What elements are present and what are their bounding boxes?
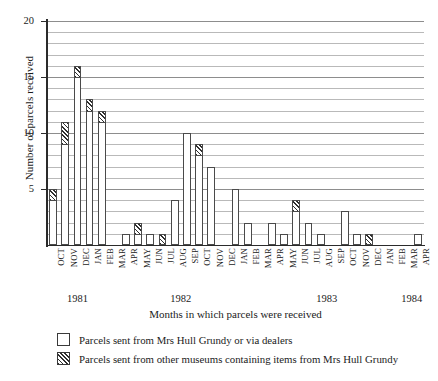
bar-segment-white — [353, 234, 361, 245]
bar-series-container — [47, 21, 424, 245]
bar-column — [74, 66, 82, 245]
bar-column — [122, 234, 130, 245]
bar-column — [341, 211, 349, 245]
y-axis-tick — [41, 189, 47, 190]
legend-label: Parcels sent from other museums containi… — [79, 353, 398, 365]
legend-swatch-white-icon — [57, 333, 70, 346]
x-axis-month-label: AUG — [324, 248, 334, 267]
y-axis-tick-label: 20 — [8, 15, 34, 26]
bar-segment-white — [317, 234, 325, 245]
bar-segment-white — [86, 111, 94, 245]
x-axis-month-label: DEC — [81, 248, 91, 266]
bar-column — [207, 167, 215, 245]
x-axis-month-label: FEB — [105, 248, 115, 264]
bar-segment-white — [146, 234, 154, 245]
x-axis-month-label: AUG — [178, 248, 188, 267]
bar-column — [414, 234, 422, 245]
x-axis-title: Months in which parcels were received — [47, 308, 424, 320]
legend-swatch-hatched-icon — [57, 352, 70, 365]
y-axis-tick-label: 15 — [8, 71, 34, 82]
x-axis-year-label: 1984 — [401, 293, 422, 304]
x-axis-month-label: JUL — [312, 248, 322, 263]
x-axis-month-label: JAN — [93, 248, 103, 264]
x-axis-month-label: SEP — [336, 248, 346, 263]
x-axis-month-label: APR — [275, 248, 285, 265]
bar-segment-hatched — [61, 122, 69, 144]
bar-column — [292, 200, 300, 245]
x-axis-month-label: JAN — [385, 248, 395, 264]
bar-segment-white — [280, 234, 288, 245]
y-axis-tick — [41, 133, 47, 134]
bar-segment-hatched — [159, 234, 167, 245]
x-axis-year-label: 1983 — [316, 293, 337, 304]
bar-segment-white — [341, 211, 349, 245]
x-axis-month-label: MAR — [409, 248, 419, 268]
bar-segment-white — [49, 200, 57, 245]
bar-segment-white — [195, 155, 203, 245]
bar-column — [171, 200, 179, 245]
x-axis-month-label: MAR — [263, 248, 273, 268]
x-axis-month-label: SEP — [190, 248, 200, 263]
legend-item: Parcels sent from other museums containi… — [57, 352, 432, 365]
y-axis-tick-label: 5 — [8, 183, 34, 194]
x-axis-month-label: MAY — [288, 248, 298, 268]
x-axis-month-label: NOV — [69, 248, 79, 267]
y-axis-tick-label: 10 — [8, 127, 34, 138]
bar-segment-hatched — [86, 99, 94, 110]
x-axis-year-label: 1981 — [67, 293, 88, 304]
bar-column — [49, 189, 57, 245]
bar-segment-hatched — [74, 66, 82, 77]
x-axis-month-label: DEC — [373, 248, 383, 266]
y-axis-tick — [41, 77, 47, 78]
x-axis-month-label: JUN — [154, 248, 164, 264]
x-axis-month-label: APR — [421, 248, 431, 265]
bar-column — [232, 189, 240, 245]
x-axis-month-label: OCT — [348, 248, 358, 266]
x-axis-month-labels: OCTNOVDECJANFEBMARAPRMAYJUNJULAUGSEPOCTN… — [47, 248, 424, 292]
bar-segment-white — [232, 189, 240, 245]
x-axis-month-label: OCT — [202, 248, 212, 266]
bar-column — [268, 223, 276, 245]
x-axis-month-label: JAN — [239, 248, 249, 264]
bar-column — [146, 234, 154, 245]
x-axis-month-label: MAY — [142, 248, 152, 268]
chart-legend: Parcels sent from Mrs Hull Grundy or via… — [57, 333, 432, 371]
legend-item: Parcels sent from Mrs Hull Grundy or via… — [57, 333, 432, 346]
y-axis-title: Number of parcels received — [23, 3, 35, 233]
bar-segment-hatched — [195, 144, 203, 155]
bar-segment-white — [292, 211, 300, 245]
x-axis-month-label: APR — [129, 248, 139, 265]
bar-segment-white — [134, 234, 142, 245]
x-axis-month-label: JUL — [166, 248, 176, 263]
bar-segment-white — [122, 234, 130, 245]
bar-column — [134, 223, 142, 245]
bar-column — [61, 122, 69, 245]
bar-segment-white — [244, 223, 252, 245]
x-axis-month-label: DEC — [227, 248, 237, 266]
bar-column — [305, 223, 313, 245]
x-axis-month-label: MAR — [117, 248, 127, 268]
y-axis-tick — [41, 21, 47, 22]
x-axis-month-label: FEB — [397, 248, 407, 264]
chart-figure: Number of parcels received OCTNOVDECJANF… — [0, 0, 438, 381]
bar-segment-hatched — [98, 111, 106, 122]
bar-column — [86, 99, 94, 245]
bar-column — [280, 234, 288, 245]
bar-column — [317, 234, 325, 245]
bar-column — [244, 223, 252, 245]
bar-segment-white — [74, 77, 82, 245]
bar-segment-white — [414, 234, 422, 245]
bar-segment-white — [305, 223, 313, 245]
bar-segment-white — [61, 144, 69, 245]
bar-segment-hatched — [49, 189, 57, 200]
x-axis-month-label: FEB — [251, 248, 261, 264]
bar-column — [159, 234, 167, 245]
bar-column — [195, 144, 203, 245]
x-axis-month-label: NOV — [361, 248, 371, 267]
bar-segment-white — [171, 200, 179, 245]
bar-segment-white — [268, 223, 276, 245]
bar-column — [98, 111, 106, 245]
bar-segment-hatched — [134, 223, 142, 234]
bar-segment-white — [98, 122, 106, 245]
bar-column — [353, 234, 361, 245]
